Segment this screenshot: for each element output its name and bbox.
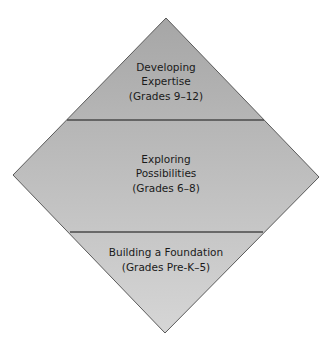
level-bottom-line-2: (Grades Pre-K–5)	[122, 261, 210, 273]
level-top-line-1: Developing	[136, 61, 195, 73]
level-middle-line-2: Possibilities	[136, 167, 197, 179]
level-middle: Exploring Possibilities (Grades 6–8)	[132, 153, 200, 194]
level-middle-line-3: (Grades 6–8)	[132, 182, 200, 194]
level-bottom-line-1: Building a Foundation	[109, 246, 223, 258]
level-top-line-2: Expertise	[141, 75, 190, 87]
level-top-line-3: (Grades 9–12)	[129, 90, 203, 102]
level-middle-line-1: Exploring	[141, 153, 190, 165]
grade-diamond-diagram: Developing Expertise (Grades 9–12) Explo…	[0, 0, 331, 343]
